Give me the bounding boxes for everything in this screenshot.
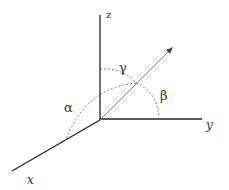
alpha-arc: [66, 83, 136, 140]
alpha-label: α: [64, 101, 73, 114]
diagram-canvas: [0, 0, 229, 190]
beta-arc: [136, 83, 159, 119]
gamma-arc: [100, 69, 136, 83]
x-axis-label: x: [27, 174, 34, 186]
z-axis-label: z: [106, 10, 111, 20]
direction-angles-diagram: z y x γ β α: [0, 0, 229, 190]
gamma-label: γ: [119, 61, 127, 74]
x-axis: [12, 120, 100, 171]
beta-label: β: [160, 89, 168, 102]
vector: [100, 50, 170, 120]
y-axis-label: y: [206, 119, 213, 131]
